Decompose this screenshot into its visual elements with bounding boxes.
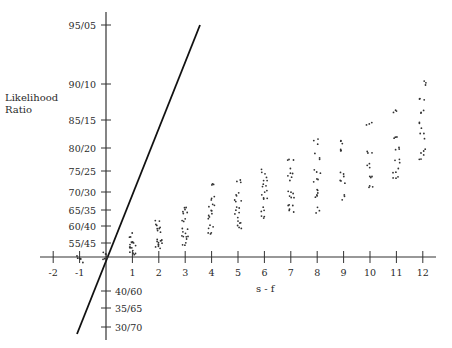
svg-text:70/30: 70/30: [69, 187, 96, 198]
svg-text:40/60: 40/60: [115, 286, 142, 297]
svg-text:8: 8: [314, 267, 320, 278]
x-axis-label: s - f: [256, 283, 275, 294]
y-axis-label: Likelihood Ratio: [5, 92, 58, 115]
scatter-chart: -2-1123456789101112 95/0590/1085/1580/20…: [0, 0, 452, 348]
svg-text:90/10: 90/10: [69, 79, 96, 90]
data-points: [76, 80, 427, 263]
x-axis: -2-1123456789101112: [40, 251, 436, 278]
svg-text:65/35: 65/35: [69, 205, 96, 216]
svg-text:9: 9: [341, 267, 347, 278]
svg-text:-2: -2: [49, 267, 58, 278]
svg-text:95/05: 95/05: [69, 20, 96, 31]
svg-text:-1: -1: [75, 267, 84, 278]
svg-text:5: 5: [235, 267, 241, 278]
svg-text:85/15: 85/15: [69, 115, 96, 126]
y-axis-title: Likelihood Ratio: [5, 92, 65, 116]
y-axis: 95/0590/1085/1580/2075/2570/3065/3560/40…: [69, 12, 143, 340]
svg-text:11: 11: [390, 267, 402, 278]
svg-text:30/70: 30/70: [115, 322, 142, 333]
svg-text:1: 1: [129, 267, 135, 278]
svg-text:60/40: 60/40: [69, 221, 96, 232]
svg-text:7: 7: [288, 267, 294, 278]
svg-text:2: 2: [156, 267, 162, 278]
x-axis-title: s - f: [256, 283, 275, 295]
svg-text:3: 3: [182, 267, 188, 278]
svg-text:6: 6: [261, 267, 267, 278]
svg-text:55/45: 55/45: [69, 238, 96, 249]
svg-text:4: 4: [209, 267, 215, 278]
svg-text:10: 10: [364, 267, 376, 278]
svg-text:80/20: 80/20: [69, 143, 96, 154]
svg-text:35/65: 35/65: [115, 303, 142, 314]
svg-text:12: 12: [417, 267, 429, 278]
svg-text:75/25: 75/25: [69, 166, 96, 177]
